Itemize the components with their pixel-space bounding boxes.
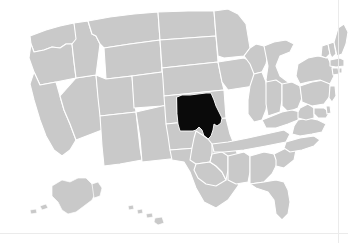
inset-alaska-panhandle[interactable]: [92, 182, 102, 198]
state-ohio[interactable]: [282, 82, 302, 112]
state-georgia[interactable]: [250, 152, 278, 184]
inset-hawaii-bigisland[interactable]: [154, 217, 164, 225]
inset-hawaii-maui[interactable]: [146, 213, 153, 218]
us-locator-map: United States map with Missouri highligh…: [0, 0, 348, 243]
state-massachusetts[interactable]: [330, 58, 344, 67]
state-maine[interactable]: [334, 24, 348, 56]
figure-right-border: [338, 0, 339, 243]
state-arizona[interactable]: [100, 112, 142, 166]
inset-alaska-mainland[interactable]: [52, 178, 96, 214]
state-new-york[interactable]: [296, 56, 334, 84]
state-florida[interactable]: [250, 180, 290, 220]
inset-alaska-aleutians-2[interactable]: [30, 209, 37, 214]
inset-alaska-aleutians[interactable]: [40, 204, 48, 210]
state-new-jersey[interactable]: [329, 86, 336, 102]
inset-hawaii-kauai[interactable]: [128, 205, 134, 210]
state-indiana[interactable]: [266, 80, 282, 116]
alaska-inset[interactable]: [30, 178, 102, 214]
hawaii-inset[interactable]: [128, 205, 164, 225]
inset-hawaii-oahu[interactable]: [137, 209, 143, 214]
state-delaware[interactable]: [326, 106, 331, 114]
us-states-map-svg: [0, 0, 348, 243]
state-alabama[interactable]: [228, 152, 250, 184]
state-pennsylvania[interactable]: [300, 80, 330, 106]
state-virginia[interactable]: [292, 118, 326, 136]
state-north-carolina[interactable]: [284, 136, 320, 152]
state-north-dakota[interactable]: [158, 11, 216, 40]
state-rhode-island[interactable]: [339, 68, 342, 73]
state-minnesota[interactable]: [214, 9, 250, 58]
state-utah[interactable]: [96, 75, 136, 116]
figure-bottom-border: [0, 233, 348, 234]
